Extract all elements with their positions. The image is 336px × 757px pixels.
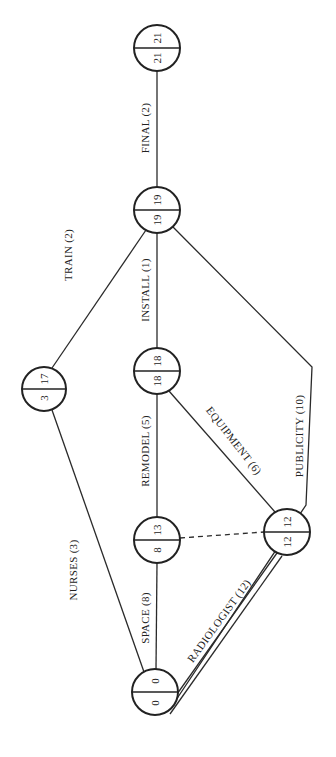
label-publicity: PUBLICITY (10)	[293, 395, 306, 477]
node-3-17-early: 3	[38, 395, 50, 401]
edge-radiologist-parallel	[170, 556, 282, 714]
node-8-13-early: 8	[151, 547, 163, 553]
node-0: 0 0	[132, 669, 178, 715]
label-radiologist: RADIOLOGIST (12)	[185, 577, 254, 665]
edge-equipment	[169, 391, 275, 512]
node-12-early: 12	[281, 537, 293, 548]
label-final: FINAL (2)	[139, 103, 152, 153]
node-12-late: 12	[281, 517, 293, 528]
label-remodel: REMODEL (5)	[139, 415, 152, 487]
edge-publicity	[173, 227, 312, 700]
label-nurses: NURSES (3)	[67, 540, 80, 601]
label-install: INSTALL (1)	[139, 258, 152, 321]
node-0-early: 0	[149, 700, 161, 706]
edge-nurses	[52, 410, 144, 672]
node-21: 21 21	[134, 25, 180, 71]
label-train: TRAIN (2)	[62, 229, 75, 281]
node-18-late: 18	[151, 355, 163, 367]
node-12: 12 12	[264, 509, 310, 555]
node-19: 19 19	[134, 187, 180, 233]
node-0-late: 0	[149, 678, 161, 684]
node-3-17-late: 17	[38, 373, 50, 385]
node-8-13-late: 13	[151, 524, 163, 536]
edge-dummy	[180, 532, 264, 538]
edge-space	[156, 563, 157, 669]
node-18-early: 18	[151, 375, 163, 387]
node-8-13: 8 13	[134, 517, 180, 563]
node-19-early: 19	[151, 214, 163, 226]
network-diagram: SPACE (8) NURSES (3) TRAIN (2) REMODEL (…	[0, 0, 336, 757]
node-18: 18 18	[134, 348, 180, 394]
node-21-early: 21	[151, 53, 163, 64]
node-19-late: 19	[151, 194, 163, 206]
node-21-late: 21	[151, 33, 163, 44]
label-space: SPACE (8)	[139, 592, 152, 644]
node-3-17: 3 17	[22, 367, 66, 411]
